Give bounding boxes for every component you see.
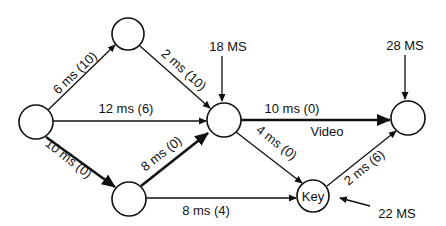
network-diagram: Key 6 ms (10) 2 ms (10) 12 ms (6) 10 ms … bbox=[0, 0, 446, 226]
edge-label-start-bottom: 10 ms (0) bbox=[43, 136, 96, 182]
ext-arrow-key bbox=[340, 198, 370, 206]
node-middle bbox=[207, 103, 241, 137]
edge-label-key-end: 2 ms (6) bbox=[341, 147, 387, 189]
edge-label-bottom-key: 8 ms (4) bbox=[182, 203, 230, 218]
ext-label-key: 22 MS bbox=[378, 206, 416, 221]
edge-label-bottom-middle: 8 ms (0) bbox=[138, 133, 185, 174]
node-key-label: Key bbox=[302, 189, 325, 204]
edge-label-middle-end: 10 ms (0) bbox=[265, 101, 320, 116]
node-end bbox=[391, 101, 425, 135]
edge-label-middle-key: 4 ms (0) bbox=[253, 122, 300, 163]
node-start bbox=[19, 105, 53, 139]
ext-label-end: 28 MS bbox=[386, 38, 424, 53]
node-bottom bbox=[112, 182, 146, 216]
ext-label-middle: 18 MS bbox=[209, 39, 247, 54]
edge-label-start-top: 6 ms (10) bbox=[50, 48, 100, 97]
node-top bbox=[112, 18, 144, 50]
edge-sublabel-video: Video bbox=[310, 124, 343, 139]
edge-label-start-middle: 12 ms (6) bbox=[99, 101, 154, 116]
